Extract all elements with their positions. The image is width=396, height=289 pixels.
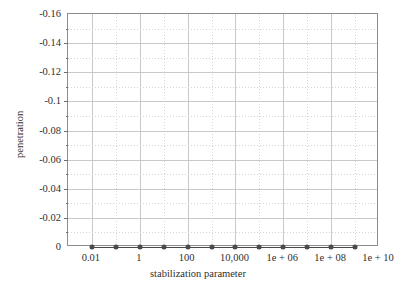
x-tick-label: 1e + 08: [314, 252, 346, 263]
gridline-y-minor: [68, 29, 377, 30]
gridline-y-major: [68, 131, 377, 132]
tick-y: [64, 160, 68, 161]
tick-y: [66, 58, 68, 59]
y-tick-label: -0.12: [20, 66, 61, 77]
gridline-x-major: [235, 14, 236, 245]
y-tick-label: -0.02: [20, 211, 61, 222]
chart-figure: 0.01110010,0001e + 061e + 081e + 10 -0.1…: [0, 0, 396, 289]
y-tick-label: -0.08: [20, 124, 61, 135]
gridline-y-major: [68, 160, 377, 161]
tick-y: [64, 131, 68, 132]
x-tick-label: 1e + 10: [362, 252, 394, 263]
gridline-y-minor: [68, 87, 377, 88]
gridline-x-major: [331, 14, 332, 245]
data-point-marker: [137, 245, 142, 250]
data-point-marker: [233, 245, 238, 250]
tick-y: [64, 43, 68, 44]
tick-y: [64, 218, 68, 219]
tick-y: [64, 72, 68, 73]
gridline-x-minor: [355, 14, 356, 245]
data-point-marker: [113, 245, 118, 250]
data-point-marker: [89, 245, 94, 250]
tick-y: [66, 145, 68, 146]
y-tick-label: -0.16: [20, 8, 61, 19]
gridline-y-major: [68, 218, 377, 219]
gridline-y-major: [68, 101, 377, 102]
y-tick-label: -0.1: [20, 95, 61, 106]
tick-y: [66, 203, 68, 204]
data-point-marker: [329, 245, 334, 250]
data-point-marker: [161, 245, 166, 250]
x-tick-label: 1e + 06: [267, 252, 299, 263]
gridline-y-minor: [68, 116, 377, 117]
y-axis-title: penetration: [14, 110, 25, 157]
tick-y: [64, 101, 68, 102]
data-point-marker: [185, 245, 190, 250]
y-tick-label: 0: [20, 241, 61, 252]
y-tick-label: -0.06: [20, 153, 61, 164]
series-line: [92, 247, 355, 248]
gridline-y-major: [68, 72, 377, 73]
gridline-x-major: [188, 14, 189, 245]
y-tick-label: -0.04: [20, 182, 61, 193]
data-point-marker: [305, 245, 310, 250]
x-axis-title: stabilization parameter: [0, 268, 396, 279]
gridline-y-minor: [68, 58, 377, 59]
tick-y: [66, 87, 68, 88]
gridline-y-major: [68, 43, 377, 44]
plot-area: [67, 13, 378, 246]
gridline-x-major: [140, 14, 141, 245]
tick-y: [64, 189, 68, 190]
gridline-y-minor: [68, 232, 377, 233]
gridline-x-major: [283, 14, 284, 245]
tick-y: [66, 116, 68, 117]
gridline-x-minor: [307, 14, 308, 245]
gridline-y-minor: [68, 203, 377, 204]
data-point-marker: [281, 245, 286, 250]
tick-y: [66, 232, 68, 233]
x-tick-label: 0.01: [82, 252, 100, 263]
gridline-x-minor: [116, 14, 117, 245]
tick-y: [66, 174, 68, 175]
tick-y: [66, 29, 68, 30]
x-tick-label: 100: [179, 252, 195, 263]
gridline-y-minor: [68, 174, 377, 175]
data-point-marker: [353, 245, 358, 250]
gridline-y-minor: [68, 145, 377, 146]
gridline-x-minor: [212, 14, 213, 245]
data-point-marker: [209, 245, 214, 250]
gridline-x-minor: [164, 14, 165, 245]
y-tick-label: -0.14: [20, 37, 61, 48]
gridline-y-major: [68, 189, 377, 190]
x-tick-label: 1: [136, 252, 141, 263]
gridline-x-major: [92, 14, 93, 245]
data-point-marker: [257, 245, 262, 250]
x-tick-label: 10,000: [220, 252, 249, 263]
gridline-x-minor: [259, 14, 260, 245]
